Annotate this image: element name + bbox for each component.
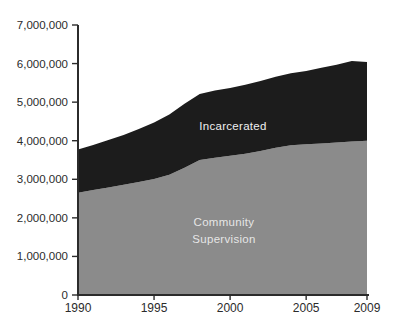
correctional-population-chart: 01,000,0002,000,0003,000,0004,000,0005,0… [0, 0, 411, 335]
x-tick-label-2009: 2009 [354, 301, 381, 315]
x-tick-label-1995: 1995 [141, 301, 168, 315]
x-tick-label-2000: 2000 [217, 301, 244, 315]
y-tick-label-0: 0 [62, 289, 68, 301]
y-tick-label-2000000: 2,000,000 [17, 212, 68, 224]
y-tick-label-1000000: 1,000,000 [17, 250, 68, 262]
y-tick-label-6000000: 6,000,000 [17, 58, 68, 70]
chart-canvas: 01,000,0002,000,0003,000,0004,000,0005,0… [0, 0, 411, 335]
y-tick-label-4000000: 4,000,000 [17, 135, 68, 147]
y-tick-label-3000000: 3,000,000 [17, 173, 68, 185]
y-tick-label-5000000: 5,000,000 [17, 96, 68, 108]
y-tick-label-7000000: 7,000,000 [17, 19, 68, 31]
x-tick-label-1990: 1990 [65, 301, 92, 315]
x-tick-label-2005: 2005 [293, 301, 320, 315]
